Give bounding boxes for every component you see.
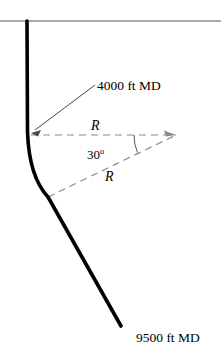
- radius-label-lower: R: [105, 170, 114, 184]
- inclination-angle-value: 30: [87, 147, 100, 162]
- inclination-arc: [134, 135, 138, 153]
- inclination-angle-label: 30o: [87, 147, 104, 161]
- well-trajectory-diagram: 4000 ft MD 9500 ft MD R R 30o: [0, 0, 221, 353]
- radius-arrowhead: [164, 131, 176, 137]
- kickoff-leader-line: [35, 85, 95, 130]
- radius-label-upper: R: [91, 119, 100, 133]
- degree-symbol-icon: o: [100, 146, 104, 156]
- total-depth-label: 9500 ft MD: [136, 331, 200, 345]
- kickoff-depth-label: 4000 ft MD: [97, 79, 161, 93]
- radius-line-lower: [48, 135, 176, 197]
